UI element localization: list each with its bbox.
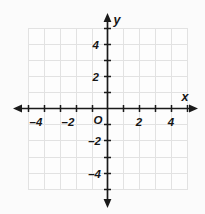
- x-tick-label-4: 4: [167, 116, 175, 128]
- y-tick-label-4: 4: [92, 39, 100, 51]
- x-tick-label--2: –2: [62, 116, 75, 128]
- x-axis-label: x: [181, 90, 190, 104]
- y-tick-label--2: –2: [88, 135, 101, 147]
- y-tick-label--4: –4: [88, 168, 101, 180]
- y-tick-label-2: 2: [92, 71, 100, 83]
- x-tick-label-2: 2: [135, 116, 143, 128]
- origin-label: O: [94, 114, 103, 126]
- coordinate-plane-figure: –4 –2 2 4 4 2 –2 –4 O x y: [0, 0, 205, 214]
- y-axis-label: y: [113, 13, 122, 27]
- x-tick-label--4: –4: [30, 116, 43, 128]
- coordinate-plane-svg: –4 –2 2 4 4 2 –2 –4 O x y: [0, 0, 205, 214]
